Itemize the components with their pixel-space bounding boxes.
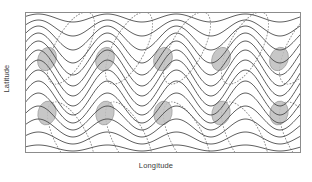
streamline-contour — [25, 145, 301, 151]
blocking-blob — [150, 45, 175, 74]
blocking-blob — [208, 45, 233, 74]
streamline-contour — [25, 26, 301, 50]
streamline-contour — [25, 132, 301, 144]
streamline-contour — [25, 14, 301, 22]
blocking-blob — [36, 99, 59, 126]
jet-stream-schematic — [0, 0, 312, 182]
figure-container: Longitude Latitude — [0, 0, 312, 182]
streamline-contour — [25, 70, 301, 106]
x-axis-label: Longitude — [0, 161, 312, 170]
y-axis-label: Latitude — [2, 55, 11, 103]
